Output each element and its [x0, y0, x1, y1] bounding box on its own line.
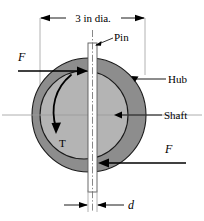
shaft-label: Shaft: [164, 109, 187, 121]
pin-width-label: d: [128, 198, 135, 212]
force-right-label: F: [164, 142, 173, 156]
shaft-hub-pin-diagram: T F F Pin Hub Shaft 3 in dia.: [0, 0, 204, 221]
diameter-label: 3 in dia.: [75, 12, 111, 24]
hub-label: Hub: [168, 73, 187, 85]
force-left-label: F: [17, 50, 26, 64]
torque-label: T: [59, 137, 66, 149]
pin-label: Pin: [114, 31, 129, 43]
figure-root: T F F Pin Hub Shaft 3 in dia.: [0, 0, 204, 221]
